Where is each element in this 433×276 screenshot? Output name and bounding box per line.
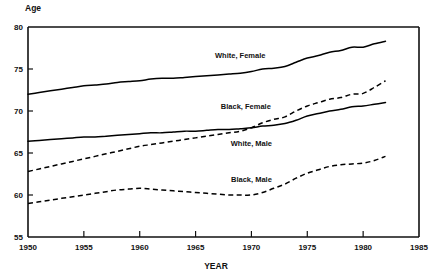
x-tick-label: 1965 bbox=[187, 243, 205, 252]
life-expectancy-line-chart: Age 556065707580 19501955196019651970197… bbox=[0, 0, 433, 276]
x-tick-label: 1955 bbox=[75, 243, 93, 252]
series-annotation-white-male: White, Male bbox=[231, 139, 272, 148]
chart-container: Age 556065707580 19501955196019651970197… bbox=[0, 0, 433, 276]
x-tick-label: 1985 bbox=[410, 243, 428, 252]
y-tick-label: 80 bbox=[14, 23, 23, 32]
y-tick-label: 55 bbox=[14, 233, 23, 242]
series-annotation-black-female: Black, Female bbox=[221, 102, 271, 111]
y-tick-label: 60 bbox=[14, 191, 23, 200]
series-annotation-black-male: Black, Male bbox=[231, 175, 272, 184]
x-tick-label: 1980 bbox=[354, 243, 372, 252]
x-axis-title: YEAR bbox=[204, 261, 228, 271]
x-tick-label: 1970 bbox=[243, 243, 261, 252]
y-axis-title: Age bbox=[25, 3, 41, 13]
series-annotation-white-female: White, Female bbox=[215, 51, 265, 60]
x-tick-label: 1960 bbox=[131, 243, 149, 252]
y-tick-label: 75 bbox=[14, 65, 23, 74]
y-tick-label: 70 bbox=[14, 107, 23, 116]
y-tick-label: 65 bbox=[14, 149, 23, 158]
x-tick-label: 1950 bbox=[19, 243, 37, 252]
x-tick-label: 1975 bbox=[298, 243, 316, 252]
